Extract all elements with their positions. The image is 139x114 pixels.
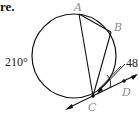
chord-ac <box>79 14 93 96</box>
arc-measure-label: 210° <box>5 55 28 69</box>
chord-bc <box>93 32 111 96</box>
point-c-dot <box>91 94 95 98</box>
label-b: B <box>113 21 122 34</box>
geometry-diagram: re. A B C D 210° 48 <box>0 0 139 114</box>
arrowhead-right-icon <box>131 74 138 80</box>
arrowhead-left-icon <box>65 104 73 110</box>
label-d: D <box>121 86 131 99</box>
point-d-dot <box>122 79 126 83</box>
angle-pointer <box>98 64 125 92</box>
caption-fragment: re. <box>0 0 15 14</box>
chord-ab <box>79 14 111 32</box>
angle-measure-label: 48 <box>126 56 138 70</box>
label-c: C <box>88 101 97 114</box>
label-a: A <box>73 1 82 14</box>
circle <box>32 14 116 98</box>
